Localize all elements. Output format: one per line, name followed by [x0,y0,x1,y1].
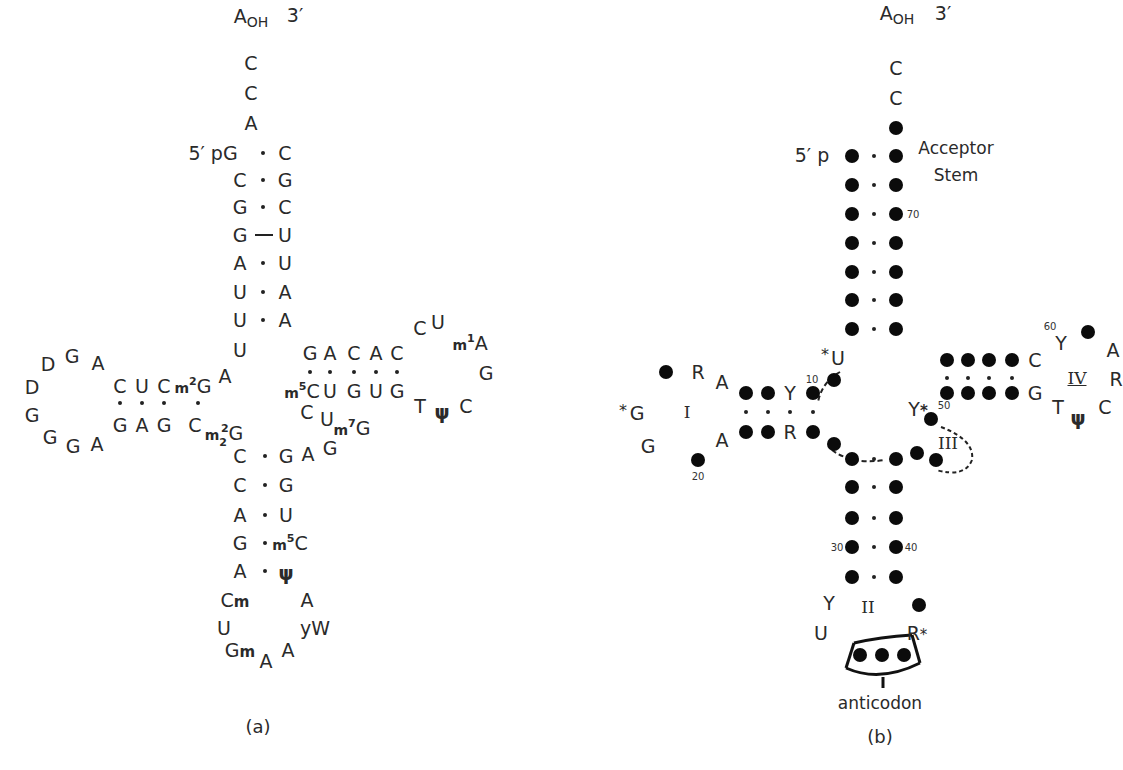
nucleotide-dot [806,425,820,439]
pair-mark [261,205,265,209]
ac-left-4: G [233,534,248,553]
pair-mark [966,376,970,380]
nucleotide-dot [845,178,859,192]
d-loop-a-bottom: A [716,431,729,450]
position-30: 30 [831,542,844,553]
pair-mark [1010,376,1014,380]
five-prime-label: 5′ pG [188,144,237,163]
pair-mark [872,270,876,274]
overhang-c2: C [889,89,902,108]
nucleotide-dot [845,511,859,525]
t-loop-g: G [479,364,494,383]
pair-mark [263,513,267,517]
d-loop-g2: G [25,406,40,425]
acc-right-6: A [279,283,292,302]
ac-loop-u: U [217,619,231,638]
caption-a: (a) [245,716,270,737]
d-stem-top-1: C [113,377,126,396]
t-stem-top-2: A [324,344,337,363]
pair-mark [162,401,166,405]
overhang-c2: C [244,84,257,103]
pair-mark [744,410,748,414]
acc-right-4: U [278,226,292,245]
nucleotide-dot [845,570,859,584]
d-loop-a-top: A [716,373,729,392]
m22g: m22G [205,423,244,446]
t-stem-top-1: G [303,344,318,363]
pair-mark [872,457,876,461]
t-loop-r: R [1109,370,1122,389]
t-loop-y: Y [1055,334,1067,353]
t-loop-psi: ψ [434,403,449,422]
acc-left-2: C [233,171,246,190]
anticodon-dot-2 [875,648,889,662]
var-u: U [320,410,334,429]
acc-left-6: U [233,283,247,302]
ac-right-1: G [279,447,294,466]
d-stem-bottom-2: A [136,416,149,435]
t-stem-top-5: C [390,344,403,363]
overhang-c1: C [244,54,257,73]
pair-mark [872,327,876,331]
t-stem-bottom-4: U [369,382,383,401]
nucleotide-dot [929,453,943,467]
pair-mark [395,370,399,374]
ac-loop-a3: A [301,591,314,610]
pair-mark [263,541,267,545]
pair-mark [328,370,332,374]
acc-left-5: A [234,254,247,273]
acc-right-5: U [278,254,292,273]
caption-b: (b) [867,726,892,747]
nucleotide-dot [691,453,705,467]
nucleotide-dot [761,386,775,400]
anticodon-label: anticodon [838,693,922,713]
pair-mark [263,483,267,487]
d-loop-r: R [691,363,704,382]
d-loop-g: G [65,347,80,366]
nucleotide-dot [845,480,859,494]
d-loop-g4: G [66,437,81,456]
ac-right-m5c: m5C [272,533,308,552]
t-stem-c: C [1028,351,1041,370]
ac-left-1: C [233,447,246,466]
t-stem-bottom-2: U [323,382,337,401]
nucleotide-dot [827,437,841,451]
d-loop-d1: D [41,355,56,374]
d-loop-d2: D [25,378,40,397]
three-prime-label: 3′ [935,4,951,23]
d-stem-bottom-1: G [113,416,128,435]
t-stem-top-3: C [347,344,360,363]
pair-mark [766,410,770,414]
nucleotide-dot [889,121,903,135]
nucleotide-dot [845,236,859,250]
pair-mark [872,298,876,302]
pair-mark [261,151,265,155]
nucleotide-dot [889,207,903,221]
d-loop-g-star: G [630,404,645,423]
t-stem-g: G [1028,384,1043,403]
d-stem-top-m2g: m2G [175,376,212,395]
nucleotide-dot [1005,353,1019,367]
nucleotide-dot [910,446,924,460]
ac-loop-a2: A [282,641,295,660]
pair-mark [308,370,312,374]
nucleotide-dot [940,386,954,400]
nucleotide-dot [827,373,841,387]
nucleotide-dot [845,265,859,279]
panel-a-trna-sequence: AOH 3′ C C A 5′ pG C G G A U U U C G C U… [0,0,560,770]
nucleotide-dot [889,236,903,250]
pair-mark [352,370,356,374]
nucleotide-dot [961,353,975,367]
t-loop-c: C [1098,398,1111,417]
five-prime-label: 5′ p [795,146,830,165]
pair-mark [118,401,122,405]
nucleotide-dot [912,598,926,612]
ac-loop-y: Y [823,594,835,613]
t-stem-top-4: A [370,344,383,363]
nucleotide-dot [889,480,903,494]
nucleotide-dot [940,353,954,367]
pair-mark [196,401,200,405]
d-loop-g-low: G [641,437,656,456]
nucleotide-dot [889,178,903,192]
junction-u8: U [233,341,247,360]
